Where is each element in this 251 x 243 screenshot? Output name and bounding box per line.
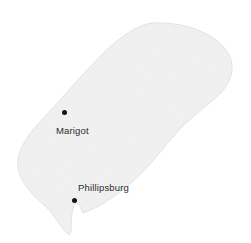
city-label-phillipsburg: Phillipsburg	[78, 182, 129, 193]
island-map-graphic	[0, 0, 251, 243]
island-landmass	[18, 23, 232, 235]
city-marker-phillipsburg[interactable]	[72, 198, 77, 203]
city-label-marigot: Marigot	[56, 125, 89, 136]
map-canvas[interactable]: Marigot Phillipsburg	[0, 0, 251, 243]
city-marker-marigot[interactable]	[62, 110, 67, 115]
